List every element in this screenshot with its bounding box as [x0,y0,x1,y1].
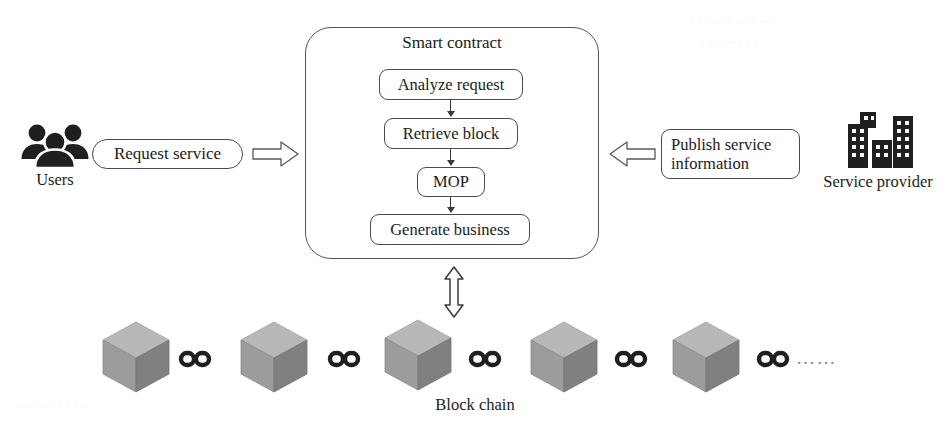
connector-arrow-2 [445,149,456,167]
blockchain-link-icon [178,349,212,369]
step-label: Generate business [390,220,510,240]
watermark-text: · · · · · · · · · · · [690,14,770,30]
step-generate-business: Generate business [370,214,530,245]
request-service-text: Request service [114,144,221,164]
blockchain-block [101,320,171,394]
blockchain-link-icon [327,349,361,369]
blockchain-block [671,320,741,394]
diagram-canvas: · · · · · · · · · · · · · · · · · · · · … [0,0,949,432]
connector-arrow-3 [445,197,456,214]
publish-service-text-line1: Publish service [671,135,771,154]
step-analyze-request: Analyze request [379,69,523,100]
users-caption: Users [10,170,100,190]
watermark-text: · · · · · · · · · [20,398,85,414]
users-icon [18,122,92,168]
blockchain-link-icon [756,349,790,369]
smart-contract-title: Smart contract [305,33,599,53]
connector-arrow-1 [445,100,456,118]
step-label: MOP [433,172,469,192]
publish-service-text-line2: information [671,154,771,173]
watermark-text: · · · · · · · · [700,34,757,50]
step-retrieve-block: Retrieve block [384,118,518,149]
service-provider-caption: Service provider [808,172,948,192]
step-mop: MOP [417,167,485,197]
request-service-label: Request service [92,139,243,169]
blockchain-block [239,320,309,394]
arrow-publish-to-contract [608,140,656,168]
buildings-icon [846,110,914,172]
blockchain-ellipsis: …… [796,347,837,369]
arrow-request-to-contract [252,140,300,168]
blockchain-link-icon [468,349,502,369]
step-label: Analyze request [398,75,505,95]
blockchain-caption: Block chain [380,395,570,415]
blockchain-link-icon [614,349,648,369]
blockchain-sync-arrow-icon [441,266,467,318]
step-label: Retrieve block [403,124,500,144]
publish-service-label: Publish service information [661,129,800,179]
blockchain-block [529,320,599,394]
blockchain-block [383,318,453,392]
